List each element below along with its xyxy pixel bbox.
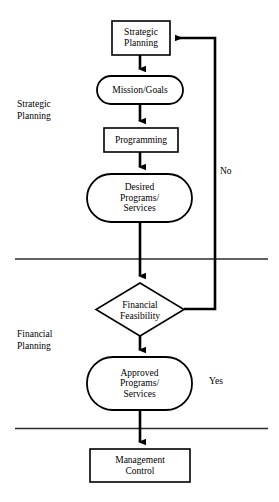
edge-label-no: No <box>220 166 232 177</box>
node-desired-programs-services <box>87 174 192 222</box>
section-label-strategic-planning: Strategic Planning <box>17 98 51 123</box>
section-label-financial-planning: Financial Planning <box>17 328 52 353</box>
node-management-control <box>90 449 190 482</box>
node-mission-goals <box>97 76 183 104</box>
node-strategic-planning <box>112 21 170 55</box>
flowchart-diagram: Strategic Planning Mission/Goals Program… <box>0 0 279 502</box>
flowchart-canvas <box>0 0 279 502</box>
node-financial-feasibility <box>96 283 184 336</box>
feedback-loop-no-path <box>177 38 215 309</box>
node-approved-programs-services <box>87 357 192 410</box>
node-programming <box>104 128 178 152</box>
edge-label-yes: Yes <box>209 376 223 387</box>
